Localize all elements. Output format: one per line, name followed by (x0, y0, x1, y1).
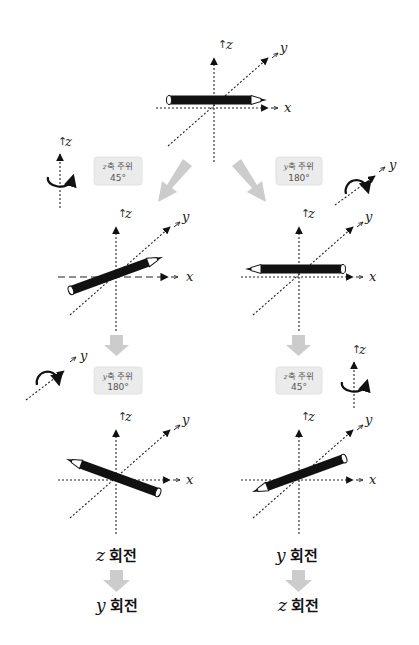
x-axis-label: x (284, 100, 292, 115)
arrow-down-right-2 (286, 335, 311, 356)
diagram-right-step2: ↑ z y x (241, 409, 377, 534)
step-box-left-y180: y축 주위 180° (94, 367, 142, 394)
caption-right: y회전 z회전 (275, 545, 319, 615)
z-rotation-icon: ↑ z (342, 342, 366, 408)
svg-text:45°: 45° (291, 382, 307, 392)
svg-text:x: x (369, 269, 377, 284)
svg-text:y축 주위: y축 주위 (102, 371, 134, 381)
y-axis-label: y (279, 40, 288, 55)
arrow-down-right (232, 159, 266, 202)
svg-text:y: y (181, 209, 190, 224)
pencil (64, 455, 162, 498)
svg-text:y회전: y회전 (95, 595, 138, 615)
step-box-left-z45: z축 주위 45° (94, 157, 142, 185)
svg-text:x: x (369, 472, 377, 487)
svg-text:x: x (186, 472, 194, 487)
step-box-right-z45: z축 주위 45° (276, 367, 322, 394)
diagram-left-step1: ↑ z y x (58, 206, 194, 331)
svg-text:z: z (358, 342, 366, 357)
pencil (245, 265, 346, 274)
svg-text:x: x (186, 269, 194, 284)
arrow-down-left-2 (104, 335, 129, 356)
svg-text:y: y (388, 157, 397, 172)
z-rotation-icon: ↑ z (48, 134, 72, 208)
svg-text:180°: 180° (288, 173, 310, 183)
y-rotation-icon: y (335, 157, 397, 205)
svg-text:45°: 45° (110, 173, 126, 183)
caption-left: z회전 y회전 (95, 545, 138, 615)
svg-text:z: z (64, 134, 72, 149)
svg-text:z회전: z회전 (95, 545, 137, 565)
y-rotation-icon: y (26, 348, 88, 400)
pencil (167, 96, 268, 105)
svg-text:z축 주위: z축 주위 (102, 161, 133, 171)
svg-text:z: z (307, 206, 315, 221)
svg-text:y축 주위: y축 주위 (283, 161, 315, 171)
step-box-right-y180: y축 주위 180° (276, 157, 322, 185)
svg-text:180°: 180° (107, 382, 129, 392)
svg-text:y: y (364, 412, 373, 427)
svg-text:z: z (124, 409, 132, 424)
svg-text:z: z (124, 206, 132, 221)
svg-text:z회전: z회전 (277, 595, 319, 615)
svg-text:z축 주위: z축 주위 (283, 371, 314, 381)
z-axis-label: z (225, 37, 233, 52)
svg-text:z: z (307, 409, 315, 424)
diagram-left-step2: ↑ z y x (58, 409, 194, 534)
top-diagram: ↑ z y x (156, 37, 292, 162)
rotation-order-diagram: ↑ z y x z축 주위 45° y축 주위 180° ↑ z y (0, 0, 419, 645)
arrow-down-left (158, 159, 192, 202)
svg-text:y: y (79, 348, 88, 363)
svg-text:y: y (181, 412, 190, 427)
diagram-right-step1: ↑ z y x (241, 206, 377, 331)
svg-text:y회전: y회전 (275, 545, 318, 565)
svg-text:y: y (364, 209, 373, 224)
